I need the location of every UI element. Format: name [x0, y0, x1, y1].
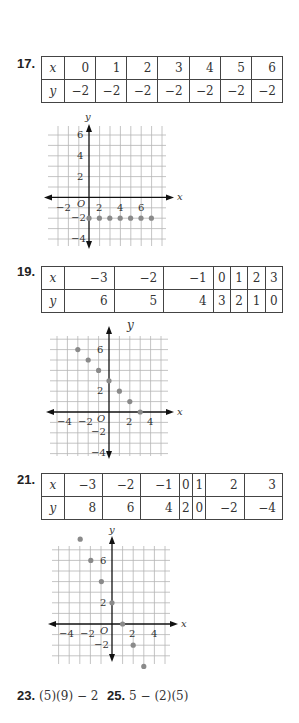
problem-number: 17.: [17, 56, 35, 71]
table-cell: 1: [248, 290, 265, 313]
table-cell: 0: [193, 497, 206, 520]
svg-text:6: 6: [97, 344, 103, 355]
value-table-17: x 0 1 2 3 4 5 6 y −2 −2 −2 −2 −2 −2 −2: [41, 56, 283, 103]
svg-text:x: x: [181, 618, 187, 629]
svg-text:4: 4: [77, 150, 83, 161]
axes: [52, 540, 174, 658]
exercise-25: 25.5 − (2)(5): [107, 688, 188, 703]
table-cell: −2: [103, 474, 141, 497]
table-cell: 2: [206, 474, 244, 497]
table-cell: 3: [213, 290, 230, 313]
svg-text:x: x: [177, 406, 183, 417]
svg-text:−2: −2: [80, 628, 95, 639]
svg-text:−2: −2: [56, 202, 71, 213]
table-cell: 5: [114, 290, 164, 313]
coordinate-graph-17: x y O −2 2 4 6 6 4 2 −2 −4: [40, 108, 190, 250]
table-cell: 3: [265, 267, 282, 290]
row-label-x: x: [42, 57, 65, 80]
table-cell: 0: [179, 474, 192, 497]
exercise-expression: 5 − (2)(5): [129, 689, 188, 703]
table-cell: −1: [164, 267, 214, 290]
y-axis-arrow-down: [106, 451, 112, 459]
table-cell: 1: [96, 57, 127, 80]
problem-number: 21.: [17, 472, 35, 487]
table-row-x: x −3 −2 −1 0 1 2 3: [42, 474, 283, 497]
table-cell: 3: [158, 57, 189, 80]
table-cell: 0: [265, 290, 282, 313]
table-cell: 2: [230, 290, 247, 313]
svg-text:O: O: [77, 198, 85, 209]
x-axis-arrow-right: [166, 194, 174, 200]
svg-text:4: 4: [151, 628, 157, 639]
coordinate-graph-21: x y O −4 −2 2 4 6 2 −2: [40, 524, 190, 672]
table-cell: −1: [141, 474, 179, 497]
svg-text:−4: −4: [57, 416, 72, 427]
row-label-y: y: [42, 290, 65, 313]
table-cell: −2: [96, 80, 127, 103]
svg-text:6: 6: [77, 129, 83, 140]
table-cell: 5: [220, 57, 251, 80]
x-axis-arrow-right: [170, 621, 178, 627]
table-cell: −2: [65, 80, 96, 103]
table-cell: 0: [65, 57, 96, 80]
x-axis-arrow-left: [46, 409, 54, 415]
svg-text:O: O: [97, 413, 105, 424]
x-axis-arrow-left: [48, 621, 56, 627]
svg-text:4: 4: [117, 202, 123, 213]
y-axis-arrow-down: [86, 241, 92, 249]
svg-text:6: 6: [138, 202, 144, 213]
y-axis-arrow-down: [109, 654, 115, 662]
exercise-23: 23.(5)(9) − 2: [17, 688, 98, 703]
svg-text:−2: −2: [71, 212, 86, 223]
svg-text:2: 2: [96, 202, 102, 213]
exercise-number: 23.: [17, 688, 35, 703]
y-axis-label: y: [127, 318, 134, 332]
row-label-x: x: [42, 474, 65, 497]
table-row-y: y −2 −2 −2 −2 −2 −2 −2: [42, 80, 283, 103]
svg-text:−4: −4: [59, 628, 74, 639]
table-cell: 0: [213, 267, 230, 290]
x-axis-arrow-right: [166, 409, 174, 415]
svg-text:6: 6: [100, 555, 106, 566]
table-cell: −4: [244, 497, 282, 520]
y-axis-arrow-up: [86, 124, 92, 132]
table-cell: 1: [193, 474, 206, 497]
table-cell: −2: [189, 80, 220, 103]
table-cell: −2: [220, 80, 251, 103]
svg-text:y: y: [84, 111, 91, 122]
table-cell: 6: [65, 290, 115, 313]
row-label-y: y: [42, 80, 65, 103]
table-cell: 4: [189, 57, 220, 80]
svg-text:2: 2: [126, 416, 132, 427]
svg-text:2: 2: [100, 597, 106, 608]
grid-lines: [48, 126, 166, 246]
table-cell: 8: [65, 497, 103, 520]
exercise-expression: (5)(9) − 2: [39, 689, 98, 703]
table-row-x: x −3 −2 −1 0 1 2 3: [42, 267, 283, 290]
svg-text:2: 2: [129, 628, 135, 639]
coordinate-graph-19: x O −4 −2 2 4 6 2 −2 −4: [40, 318, 190, 460]
value-table-21: x −3 −2 −1 0 1 2 3 y 8 6 4 2 0 −2 −4: [41, 473, 283, 520]
axes: [50, 330, 170, 456]
svg-text:−2: −2: [94, 639, 109, 650]
problem-number: 19.: [17, 264, 35, 279]
table-cell: 1: [230, 267, 247, 290]
table-cell: 6: [251, 57, 282, 80]
x-axis-arrow-left: [44, 194, 52, 200]
table-cell: −2: [251, 80, 282, 103]
table-cell: 4: [164, 290, 214, 313]
table-cell: 6: [103, 497, 141, 520]
table-row-y: y 6 5 4 3 2 1 0: [42, 290, 283, 313]
table-row-y: y 8 6 4 2 0 −2 −4: [42, 497, 283, 520]
table-cell: −2: [158, 80, 189, 103]
svg-text:−2: −2: [91, 426, 106, 437]
value-table-19: x −3 −2 −1 0 1 2 3 y 6 5 4 3 2 1 0: [41, 266, 283, 313]
svg-text:4: 4: [147, 416, 153, 427]
table-cell: 2: [127, 57, 158, 80]
exercise-number: 25.: [107, 688, 125, 703]
row-label-x: x: [42, 267, 65, 290]
svg-text:−4: −4: [91, 447, 106, 458]
table-cell: 2: [179, 497, 192, 520]
svg-text:2: 2: [77, 171, 83, 182]
y-axis-arrow-up: [106, 326, 112, 334]
